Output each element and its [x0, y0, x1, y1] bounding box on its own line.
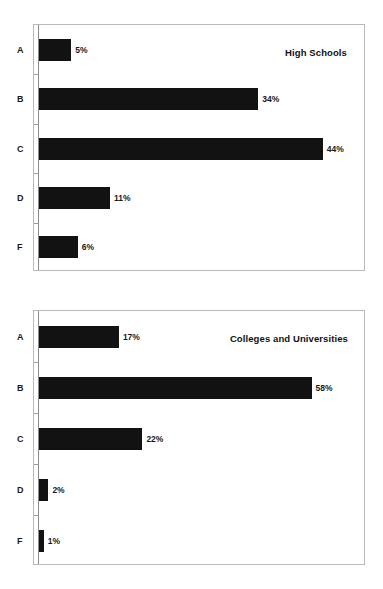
bar-value-f: 1% — [48, 536, 60, 545]
bar-value-c: 44% — [327, 144, 344, 153]
chart-title: High Schools — [285, 47, 347, 58]
bar-value-a: 17% — [123, 332, 140, 341]
bar-d[interactable] — [39, 479, 48, 501]
plot-area-colleges: Colleges and Universities A 17% B 58% C … — [34, 311, 364, 564]
category-label-b: B — [17, 95, 29, 104]
chart-title: Colleges and Universities — [230, 333, 348, 344]
bar-value-b: 58% — [316, 383, 333, 392]
bar-value-f: 6% — [82, 243, 94, 252]
axis-tick — [34, 362, 39, 363]
bar-b[interactable] — [39, 377, 312, 399]
bar-f[interactable] — [39, 530, 44, 552]
axis-tick — [34, 124, 39, 125]
chart-high-schools: High Schools A 5% B 34% C 44% D 11% F 6% — [33, 24, 365, 271]
axis-tick — [34, 464, 39, 465]
category-label-b: B — [17, 383, 29, 392]
category-label-c: C — [17, 434, 29, 443]
category-label-d: D — [17, 485, 29, 494]
plot-area-high-schools: High Schools A 5% B 34% C 44% D 11% F 6% — [34, 25, 364, 270]
bar-c[interactable] — [39, 138, 323, 160]
bar-value-b: 34% — [262, 95, 279, 104]
bar-value-d: 11% — [114, 194, 131, 203]
axis-tick — [34, 413, 39, 414]
bar-value-c: 22% — [146, 434, 163, 443]
axis-tick — [34, 515, 39, 516]
chart-colleges-and-universities: Colleges and Universities A 17% B 58% C … — [33, 310, 365, 565]
axis-tick — [34, 223, 39, 224]
category-label-a: A — [17, 45, 29, 54]
category-label-f: F — [17, 243, 29, 252]
bar-f[interactable] — [39, 236, 78, 258]
bar-a[interactable] — [39, 39, 71, 61]
axis-tick — [34, 74, 39, 75]
category-label-d: D — [17, 193, 29, 202]
bar-d[interactable] — [39, 187, 110, 209]
category-label-a: A — [17, 332, 29, 341]
bar-b[interactable] — [39, 88, 258, 110]
bar-c[interactable] — [39, 428, 142, 450]
category-label-c: C — [17, 144, 29, 153]
axis-tick — [34, 173, 39, 174]
category-label-f: F — [17, 536, 29, 545]
bar-value-d: 2% — [52, 485, 64, 494]
bar-value-a: 5% — [75, 45, 87, 54]
bar-a[interactable] — [39, 326, 119, 348]
